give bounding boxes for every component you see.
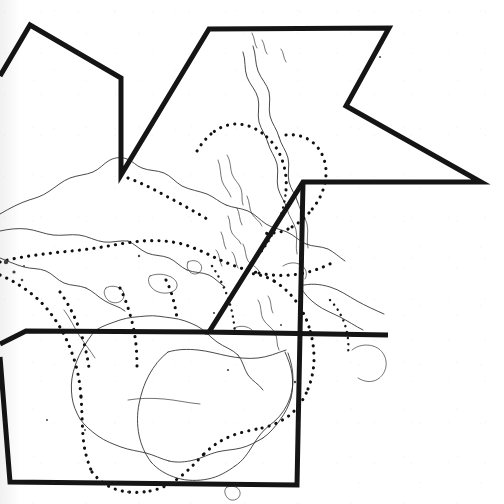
polygon-overlay-layer: [0, 0, 504, 504]
overlay-polyline-left-wedge: [0, 331, 209, 344]
overlay-polyline-main: [0, 25, 481, 335]
scanned-map-page: Photocopied outline map of the Asia-Paci…: [0, 0, 504, 504]
